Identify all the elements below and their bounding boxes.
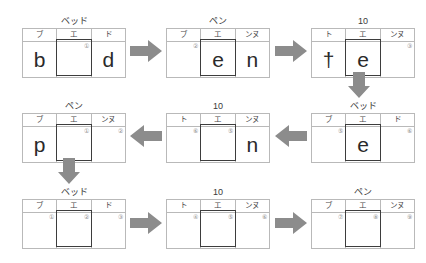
letter-row: ⑥⑤n bbox=[167, 127, 270, 163]
letter-cell-1[interactable]: ② bbox=[57, 213, 91, 249]
letter-cell-0[interactable]: b bbox=[23, 42, 57, 78]
letter-cell-1[interactable]: e bbox=[346, 127, 380, 163]
grid-table: ベッドブエドb①d bbox=[22, 14, 126, 78]
cell-marker: ⑧ bbox=[373, 214, 378, 220]
grid-table: 10トエンヌ†e③ bbox=[311, 14, 415, 78]
column-header-2: ンヌ bbox=[380, 29, 414, 42]
cell-marker: ② bbox=[84, 214, 89, 220]
table-title: ペン bbox=[167, 15, 270, 29]
column-header-0: ト bbox=[167, 114, 201, 127]
cell-marker: ② bbox=[193, 43, 198, 49]
letter-glyph: d bbox=[92, 42, 125, 77]
letter-cell-1[interactable]: ① bbox=[57, 42, 91, 78]
grid-table: ペンブエンヌ⑦⑧⑨ bbox=[311, 185, 415, 249]
column-header-2: ド bbox=[380, 114, 414, 127]
column-header-0: ブ bbox=[167, 29, 201, 42]
table-title: ベッド bbox=[312, 100, 415, 114]
column-header-row: ブエンヌ bbox=[23, 114, 126, 127]
column-header-0: ブ bbox=[312, 114, 346, 127]
letter-cell-0[interactable]: ⑥ bbox=[167, 127, 201, 163]
cell-marker: ⑨ bbox=[407, 214, 412, 220]
column-header-1: エ bbox=[346, 114, 380, 127]
step-table-bottom-center: 10トエンヌ④⑤⑥ bbox=[166, 185, 270, 247]
table-title: 10 bbox=[167, 100, 270, 114]
column-header-2: ンヌ bbox=[91, 114, 125, 127]
cell-marker: ③ bbox=[118, 214, 123, 220]
grid-table: ベッドブエド①②③ bbox=[22, 185, 126, 249]
letter-cell-2[interactable]: d bbox=[91, 42, 125, 78]
cell-marker: ⑤ bbox=[338, 128, 343, 134]
cell-marker: ⑥ bbox=[193, 128, 198, 134]
letter-cell-0[interactable]: ⑤ bbox=[312, 127, 346, 163]
letter-row: ⑦⑧⑨ bbox=[312, 213, 415, 249]
cell-marker: ① bbox=[84, 43, 89, 49]
letter-row: ⑤e⑥ bbox=[312, 127, 415, 163]
column-header-0: ト bbox=[312, 29, 346, 42]
column-header-1: エ bbox=[201, 29, 235, 42]
flow-arrow-right bbox=[275, 40, 307, 62]
table-title-row: ペン bbox=[312, 186, 415, 200]
cell-marker: ⑥ bbox=[407, 128, 412, 134]
letter-cell-2[interactable]: n bbox=[235, 42, 269, 78]
column-header-row: トエンヌ bbox=[312, 29, 415, 42]
step-table-top-left: ベッドブエドb①d bbox=[22, 14, 126, 76]
letter-cell-2[interactable]: ⑥ bbox=[380, 127, 414, 163]
cell-marker: ④ bbox=[193, 214, 198, 220]
letter-cell-2[interactable]: ③ bbox=[91, 213, 125, 249]
step-table-middle-center: 10トエンヌ⑥⑤n bbox=[166, 99, 270, 161]
letter-cell-2[interactable]: ② bbox=[91, 127, 125, 163]
column-header-1: エ bbox=[346, 29, 380, 42]
column-header-row: ブエンヌ bbox=[167, 29, 270, 42]
letter-cell-1[interactable]: ⑧ bbox=[346, 213, 380, 249]
table-title-row: ベッド bbox=[23, 15, 126, 29]
column-header-2: ド bbox=[91, 29, 125, 42]
letter-cell-0[interactable]: ① bbox=[23, 213, 57, 249]
column-header-2: ンヌ bbox=[380, 200, 414, 213]
step-table-middle-left: ペンブエンヌp①② bbox=[22, 99, 126, 161]
flow-arrow-down bbox=[348, 72, 370, 98]
letter-glyph: p bbox=[23, 127, 56, 162]
step-table-middle-right: ベッドブエド⑤e⑥ bbox=[311, 99, 415, 161]
letter-row: ④⑤⑥ bbox=[167, 213, 270, 249]
column-header-0: ト bbox=[167, 200, 201, 213]
cell-marker: ① bbox=[49, 214, 54, 220]
table-title: 10 bbox=[167, 186, 270, 200]
grid-table: ペンブエンヌ②en bbox=[166, 14, 270, 78]
flow-arrow-right bbox=[130, 212, 162, 234]
column-header-row: ブエド bbox=[23, 29, 126, 42]
column-header-2: ンヌ bbox=[235, 200, 269, 213]
letter-cell-2[interactable]: ⑥ bbox=[235, 213, 269, 249]
letter-cell-1[interactable]: e bbox=[201, 42, 235, 78]
table-title-row: ベッド bbox=[23, 186, 126, 200]
letter-cell-0[interactable]: ② bbox=[167, 42, 201, 78]
letter-cell-1[interactable]: ⑤ bbox=[201, 127, 235, 163]
letter-glyph: e bbox=[201, 42, 234, 77]
table-title-row: 10 bbox=[167, 186, 270, 200]
column-header-1: エ bbox=[57, 29, 91, 42]
letter-cell-0[interactable]: p bbox=[23, 127, 57, 163]
cell-marker: ② bbox=[118, 128, 123, 134]
letter-cell-2[interactable]: ③ bbox=[380, 42, 414, 78]
letter-cell-0[interactable]: † bbox=[312, 42, 346, 78]
table-title-row: 10 bbox=[312, 15, 415, 29]
letter-cell-1[interactable]: ⑤ bbox=[201, 213, 235, 249]
column-header-0: ブ bbox=[23, 114, 57, 127]
table-title-row: ペン bbox=[167, 15, 270, 29]
transformation-diagram: ベッドブエドb①dペンブエンヌ②en10トエンヌ†e③ベッドブエド⑤e⑥10トエ… bbox=[0, 0, 426, 263]
table-title: 10 bbox=[312, 15, 415, 29]
table-title-row: ベッド bbox=[312, 100, 415, 114]
step-table-bottom-left: ベッドブエド①②③ bbox=[22, 185, 126, 247]
flow-arrow-down bbox=[58, 158, 80, 184]
letter-cell-0[interactable]: ⑦ bbox=[312, 213, 346, 249]
letter-cell-0[interactable]: ④ bbox=[167, 213, 201, 249]
table-title-row: ペン bbox=[23, 100, 126, 114]
step-table-bottom-right: ペンブエンヌ⑦⑧⑨ bbox=[311, 185, 415, 247]
letter-cell-2[interactable]: n bbox=[235, 127, 269, 163]
grid-table: 10トエンヌ④⑤⑥ bbox=[166, 185, 270, 249]
flow-arrow-left bbox=[130, 125, 162, 147]
step-table-top-right: 10トエンヌ†e③ bbox=[311, 14, 415, 76]
column-header-row: ブエド bbox=[23, 200, 126, 213]
column-header-0: ブ bbox=[23, 200, 57, 213]
letter-cell-2[interactable]: ⑨ bbox=[380, 213, 414, 249]
cell-marker: ⑥ bbox=[262, 214, 267, 220]
